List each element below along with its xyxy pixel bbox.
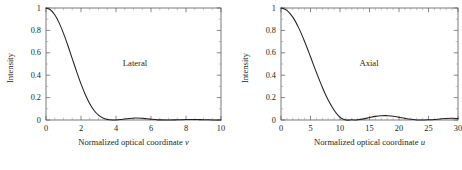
axial-y-axis-title: Intensity <box>240 52 250 83</box>
lateral-x-axis-title: Normalized optical coordinate v <box>78 137 189 147</box>
axial-xtick-25: 25 <box>424 124 432 133</box>
lateral-xtick-0: 0 <box>44 124 48 133</box>
lateral-ytick-0.4: 0.4 <box>31 71 42 80</box>
lateral-xtick-2: 2 <box>79 124 83 133</box>
axial-annotation: Axial <box>359 58 379 68</box>
axial-x-axis-title-text: Normalized optical coordinate <box>314 137 419 147</box>
axial-x-axis-title: Normalized optical coordinate u <box>314 137 425 147</box>
lateral-xtick-10: 10 <box>217 124 225 133</box>
axial-xtick-5: 5 <box>308 124 312 133</box>
lateral-plot-svg: Intensity 0 0.2 0.4 0.6 0.8 1 0 2 4 6 8 … <box>0 0 231 170</box>
axial-xtick-15: 15 <box>365 124 373 133</box>
lateral-x-axis-symbol: v <box>185 137 189 147</box>
axial-xtick-20: 20 <box>395 124 403 133</box>
lateral-ytick-1: 1 <box>37 4 41 13</box>
axial-xtick-30: 30 <box>454 124 462 133</box>
lateral-ytick-0: 0 <box>37 116 41 125</box>
lateral-xtick-6: 6 <box>149 124 153 133</box>
lateral-ytick-0.2: 0.2 <box>31 93 41 102</box>
lateral-x-axis-title-text: Normalized optical coordinate <box>78 137 183 147</box>
chart-panel-axial: Intensity 0 0.2 0.4 0.6 0.8 1 0 5 10 15 … <box>231 0 462 170</box>
lateral-ytick-0.8: 0.8 <box>31 26 41 35</box>
psf-figure: Intensity 0 0.2 0.4 0.6 0.8 1 0 2 4 6 8 … <box>0 0 462 170</box>
axial-ytick-0.8: 0.8 <box>266 26 276 35</box>
lateral-y-axis-title: Intensity <box>5 52 15 83</box>
lateral-xtick-8: 8 <box>184 124 188 133</box>
chart-panel-lateral: Intensity 0 0.2 0.4 0.6 0.8 1 0 2 4 6 8 … <box>0 0 231 170</box>
axial-ytick-0.2: 0.2 <box>266 93 276 102</box>
lateral-xtick-4: 4 <box>114 124 119 133</box>
axial-xtick-0: 0 <box>279 124 283 133</box>
axial-xtick-10: 10 <box>336 124 344 133</box>
axial-x-axis-symbol: u <box>421 137 425 147</box>
axial-ytick-0: 0 <box>272 116 276 125</box>
axial-ytick-0.4: 0.4 <box>266 71 277 80</box>
axial-ytick-0.6: 0.6 <box>266 48 276 57</box>
axial-plot-svg: Intensity 0 0.2 0.4 0.6 0.8 1 0 5 10 15 … <box>231 0 462 170</box>
axial-ytick-1: 1 <box>272 4 276 13</box>
lateral-ytick-0.6: 0.6 <box>31 48 41 57</box>
lateral-annotation: Lateral <box>123 58 148 68</box>
